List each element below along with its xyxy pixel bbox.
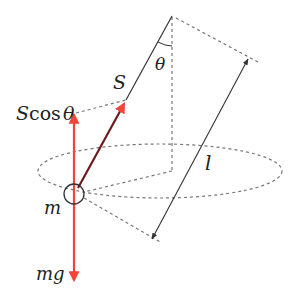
pendulum-diagram: S Scosθ θ l m mg	[0, 0, 300, 295]
radius-line	[84, 171, 172, 192]
vertical-component-func: cos	[29, 102, 61, 124]
angle-label: θ	[155, 54, 165, 74]
projection-line	[76, 100, 126, 113]
length-extension-bottom	[84, 198, 162, 243]
vertical-component-prefix: S	[16, 102, 29, 124]
angle-arc	[158, 42, 172, 46]
weight-label: mg	[36, 263, 65, 284]
length-label: l	[205, 151, 211, 175]
mass-label: m	[44, 197, 61, 218]
diagram-canvas: S Scosθ θ l m mg	[0, 0, 300, 295]
vertical-component-label: Scosθ	[16, 102, 75, 124]
length-arrow	[152, 59, 248, 239]
length-extension-top	[176, 18, 258, 62]
vertical-component-angle: θ	[63, 102, 75, 124]
tension-label: S	[113, 71, 126, 93]
